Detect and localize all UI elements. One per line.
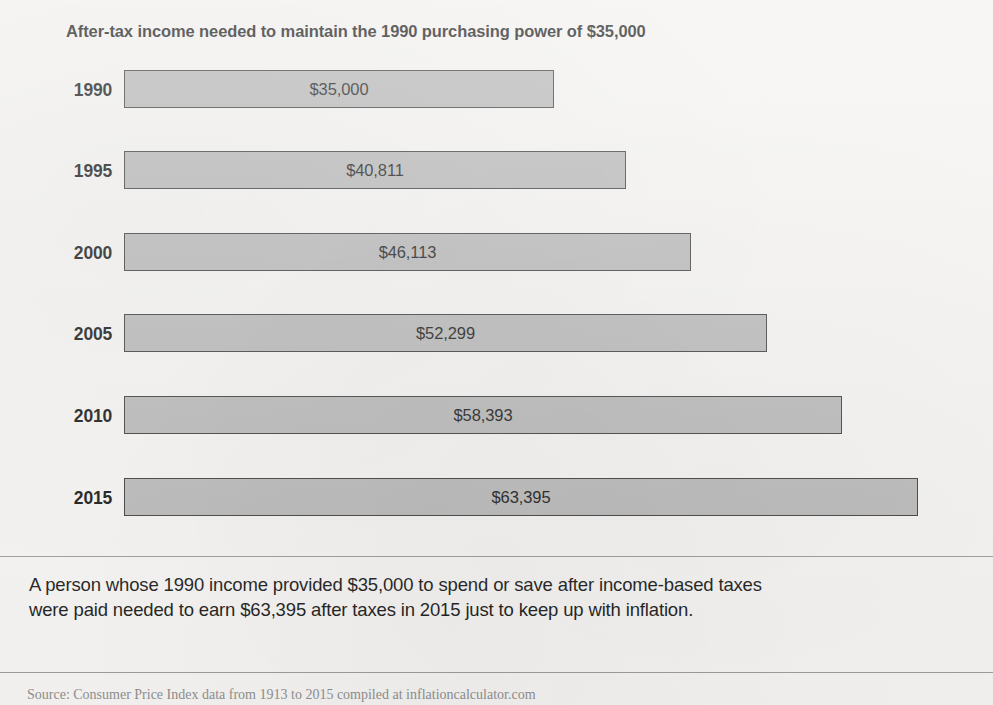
source-top-divider — [0, 672, 993, 673]
bar-row: 2015 $63,395 — [0, 478, 993, 518]
bar-value-label: $58,393 — [454, 406, 513, 425]
caption-top-divider — [0, 556, 993, 557]
bar-1995[interactable]: $40,811 — [124, 151, 626, 189]
bar-value-label: $63,395 — [492, 488, 551, 507]
bar-1990[interactable]: $35,000 — [124, 70, 554, 108]
bar-category-label: 1995 — [44, 161, 112, 182]
chart-title: After-tax income needed to maintain the … — [66, 22, 646, 41]
bar-value-label: $52,299 — [416, 324, 475, 343]
bar-category-label: 2015 — [44, 488, 112, 509]
bar-value-label: $40,811 — [346, 161, 404, 180]
bar-2015[interactable]: $63,395 — [124, 478, 918, 516]
bar-2000[interactable]: $46,113 — [124, 233, 691, 271]
bar-row: 1995 $40,811 — [0, 151, 993, 191]
bar-row: 2010 $58,393 — [0, 396, 993, 436]
bar-row: 2005 $52,299 — [0, 314, 993, 354]
bar-2010[interactable]: $58,393 — [124, 396, 842, 434]
bar-category-label: 2010 — [44, 406, 112, 427]
bar-chart: 1990 $35,000 1995 $40,811 2000 $46,113 2… — [0, 62, 993, 542]
bar-row: 2000 $46,113 — [0, 233, 993, 273]
bar-2005[interactable]: $52,299 — [124, 314, 767, 352]
source-note: Source: Consumer Price Index data from 1… — [27, 686, 967, 703]
bar-row: 1990 $35,000 — [0, 70, 993, 110]
bar-value-label: $35,000 — [310, 80, 369, 99]
chart-caption: A person whose 1990 income provided $35,… — [29, 572, 789, 622]
bar-category-label: 1990 — [44, 80, 112, 101]
bar-value-label: $46,113 — [379, 243, 437, 262]
bar-category-label: 2000 — [44, 243, 112, 264]
bar-category-label: 2005 — [44, 324, 112, 345]
